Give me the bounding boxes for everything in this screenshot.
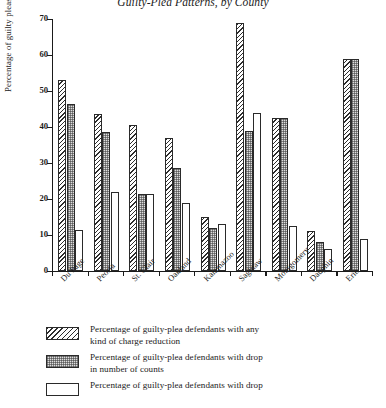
diagonal-hatch-swatch	[46, 327, 79, 340]
bar-group	[94, 19, 119, 271]
y-tick-label: 50	[39, 84, 48, 97]
white-swatch	[46, 383, 79, 396]
legend-label: Percentage of guilty-plea defendants wit…	[90, 324, 259, 347]
y-tick-label: 0	[44, 264, 48, 277]
bar	[165, 138, 173, 271]
x-tick-mark	[265, 271, 266, 276]
y-axis-title: Percentage of guilty pleas	[3, 0, 13, 92]
x-tick-mark	[301, 271, 302, 276]
x-tick-mark	[336, 271, 337, 276]
bar	[236, 23, 244, 271]
y-tick-label: 60	[39, 48, 48, 61]
legend-item: Percentage of guilty-plea defendants wit…	[46, 381, 376, 408]
x-tick-mark	[123, 271, 124, 276]
y-tick-label: 70	[39, 12, 48, 25]
bar	[102, 132, 110, 271]
bar	[343, 59, 351, 271]
x-tick-mark	[159, 271, 160, 276]
plot-area: 010203040506070	[52, 19, 372, 271]
stipple-gray-swatch	[46, 355, 79, 368]
y-tick-label: 20	[39, 192, 48, 205]
bar	[360, 239, 368, 271]
bar	[58, 80, 66, 271]
bar	[201, 217, 209, 271]
legend-label: Percentage of guilty-plea defendants wit…	[90, 380, 263, 392]
guilty-plea-bar-chart: Guilty-Plea Patterns, by County 01020304…	[0, 0, 386, 408]
x-tick-mark	[52, 271, 53, 276]
bar	[245, 131, 253, 271]
bar	[111, 192, 119, 271]
bar-group	[236, 19, 261, 271]
bar-group	[343, 19, 368, 271]
bar	[138, 194, 146, 271]
x-tick-mark	[194, 271, 195, 276]
bar	[129, 125, 137, 271]
bar-group	[201, 19, 226, 271]
x-tick-mark	[230, 271, 231, 276]
legend-label: Percentage of guilty-plea defendants wit…	[90, 352, 263, 375]
y-tick-label: 30	[39, 156, 48, 169]
chart-legend: Percentage of guilty-plea defendants wit…	[46, 325, 376, 408]
bar	[67, 104, 75, 271]
bar	[173, 168, 181, 271]
bar-group	[165, 19, 190, 271]
bar	[253, 113, 261, 271]
y-axis-line	[52, 19, 53, 271]
y-tick-label: 40	[39, 120, 48, 133]
bar	[272, 118, 280, 271]
bar	[94, 114, 102, 271]
chart-title: Guilty-Plea Patterns, by County	[0, 0, 386, 8]
x-tick-mark	[372, 271, 373, 276]
y-tick-label: 10	[39, 228, 48, 241]
bar-group	[307, 19, 332, 271]
bar-group	[272, 19, 297, 271]
bar-group	[129, 19, 154, 271]
bar	[280, 118, 288, 271]
legend-item: Percentage of guilty-plea defendants wit…	[46, 353, 376, 381]
bar	[351, 59, 359, 271]
x-tick-mark	[88, 271, 89, 276]
bar-group	[58, 19, 83, 271]
legend-item: Percentage of guilty-plea defendants wit…	[46, 325, 376, 353]
